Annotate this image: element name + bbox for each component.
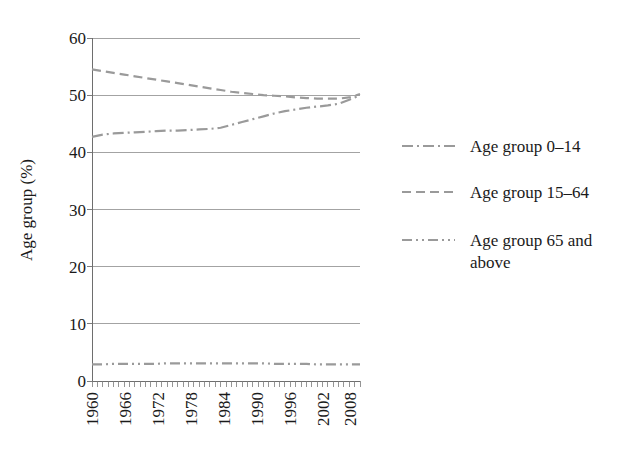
x-tick-label-1996: 1996 (281, 392, 300, 426)
y-tick-label-0: 0 (78, 372, 87, 391)
y-tick-label-60: 60 (69, 29, 86, 48)
legend-label-age-65-above-line1: Age group 65 and (470, 231, 593, 250)
chart-figure: 60 50 40 30 20 10 0 Age group (%) 1960 1… (0, 0, 635, 466)
legend-label-age-0-14: Age group 0–14 (470, 137, 581, 156)
x-tick-label-1966: 1966 (116, 392, 135, 426)
x-tick-label-2002: 2002 (314, 392, 333, 426)
y-tick-label-10: 10 (69, 315, 86, 334)
y-tick-label-50: 50 (69, 86, 86, 105)
x-tick-label-2008: 2008 (341, 392, 360, 426)
legend-label-age-65-above-line2: above (470, 253, 511, 272)
y-tick-label-40: 40 (69, 143, 86, 162)
x-tick-label-1960: 1960 (83, 392, 102, 426)
y-tick-label-20: 20 (69, 258, 86, 277)
age-group-line-chart: 60 50 40 30 20 10 0 Age group (%) 1960 1… (0, 0, 635, 466)
x-tick-label-1972: 1972 (149, 392, 168, 426)
y-axis-title: Age group (%) (17, 159, 36, 261)
x-tick-label-1984: 1984 (215, 392, 234, 427)
x-tick-label-1990: 1990 (248, 392, 267, 426)
legend-label-age-15-64: Age group 15–64 (470, 183, 589, 202)
y-tick-label-30: 30 (69, 201, 86, 220)
x-tick-label-1978: 1978 (182, 392, 201, 426)
